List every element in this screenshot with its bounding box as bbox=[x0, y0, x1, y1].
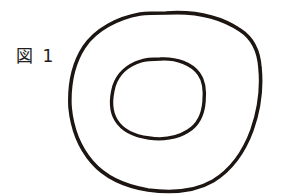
figure-caption: 図 1 bbox=[16, 46, 55, 66]
inner-circle-shape bbox=[112, 59, 205, 139]
hand-drawn-diagram bbox=[0, 0, 281, 196]
figure-panel: 図 1 bbox=[0, 0, 281, 196]
outer-blob-shape bbox=[70, 13, 261, 192]
